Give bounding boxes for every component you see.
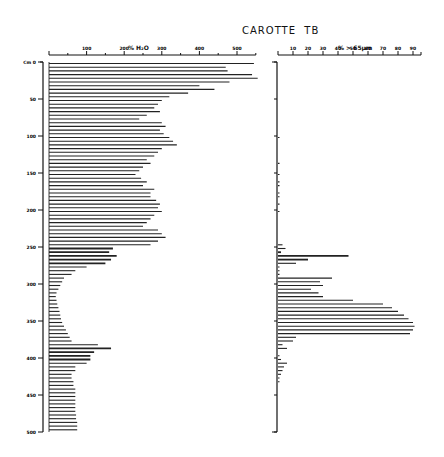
sand-tick-label: 40 [335,46,341,51]
h2o-tick-label: 200 [119,46,128,51]
depth-tick-label: 200 [27,208,36,213]
depth-tick-label: 250 [27,245,36,250]
depth-tick-label: 100 [27,134,36,139]
h2o-tick-label: 300 [157,46,166,51]
sand-tick-label: 70 [380,46,386,51]
depth-tick-label: 450 [27,393,36,398]
sand-tick-label: 80 [395,46,401,51]
depth-tick-label: 150 [27,171,36,176]
depth-tick-label: 400 [27,356,36,361]
h2o-tick-label: 400 [195,46,204,51]
sand-tick-label: 20 [305,46,311,51]
sand-tick-label: 50 [350,46,356,51]
h2o-tick-label: 500 [232,46,241,51]
h2o-tick-label: 100 [82,46,91,51]
sand-tick-label: 60 [365,46,371,51]
sand-tick-label: 30 [320,46,326,51]
sand-tick-label: 10 [290,46,296,51]
sand-tick-label: 90 [410,46,416,51]
depth-tick-label: 300 [27,282,36,287]
depth-tick-label: 350 [27,319,36,324]
depth-tick-label: Cm 0 [23,60,36,65]
core-log-chart: Cm 0501001502002503003504004505001002003… [0,0,444,457]
depth-tick-label: 50 [30,97,36,102]
depth-tick-label: 500 [27,430,36,435]
